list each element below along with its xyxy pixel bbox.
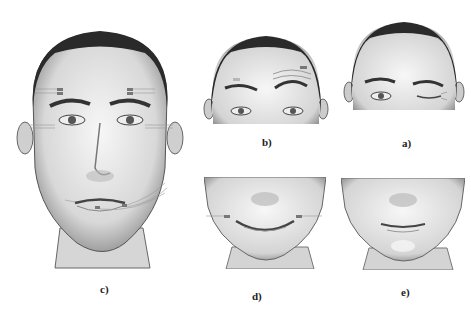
- face-illustration-brows-raised: [203, 34, 329, 124]
- panel-label-b: b): [262, 136, 272, 148]
- panel-label-c: c): [100, 283, 109, 295]
- sensor-forehead: [300, 66, 307, 69]
- panel-c-full-face: [15, 28, 185, 273]
- panel-b-upper-face: [203, 34, 329, 124]
- face-illustration-wink: [343, 20, 469, 110]
- face-illustration-full: [15, 28, 185, 273]
- panel-label-d: d): [252, 290, 262, 302]
- face-illustration-smile: [204, 177, 326, 269]
- panel-a-upper-face: [343, 20, 469, 110]
- panel-label-e: e): [401, 286, 410, 298]
- face-illustration-pursed: [341, 178, 465, 270]
- panel-d-lower-face: [204, 177, 326, 269]
- panel-label-a: a): [402, 137, 411, 149]
- panel-e-lower-face: [341, 178, 465, 270]
